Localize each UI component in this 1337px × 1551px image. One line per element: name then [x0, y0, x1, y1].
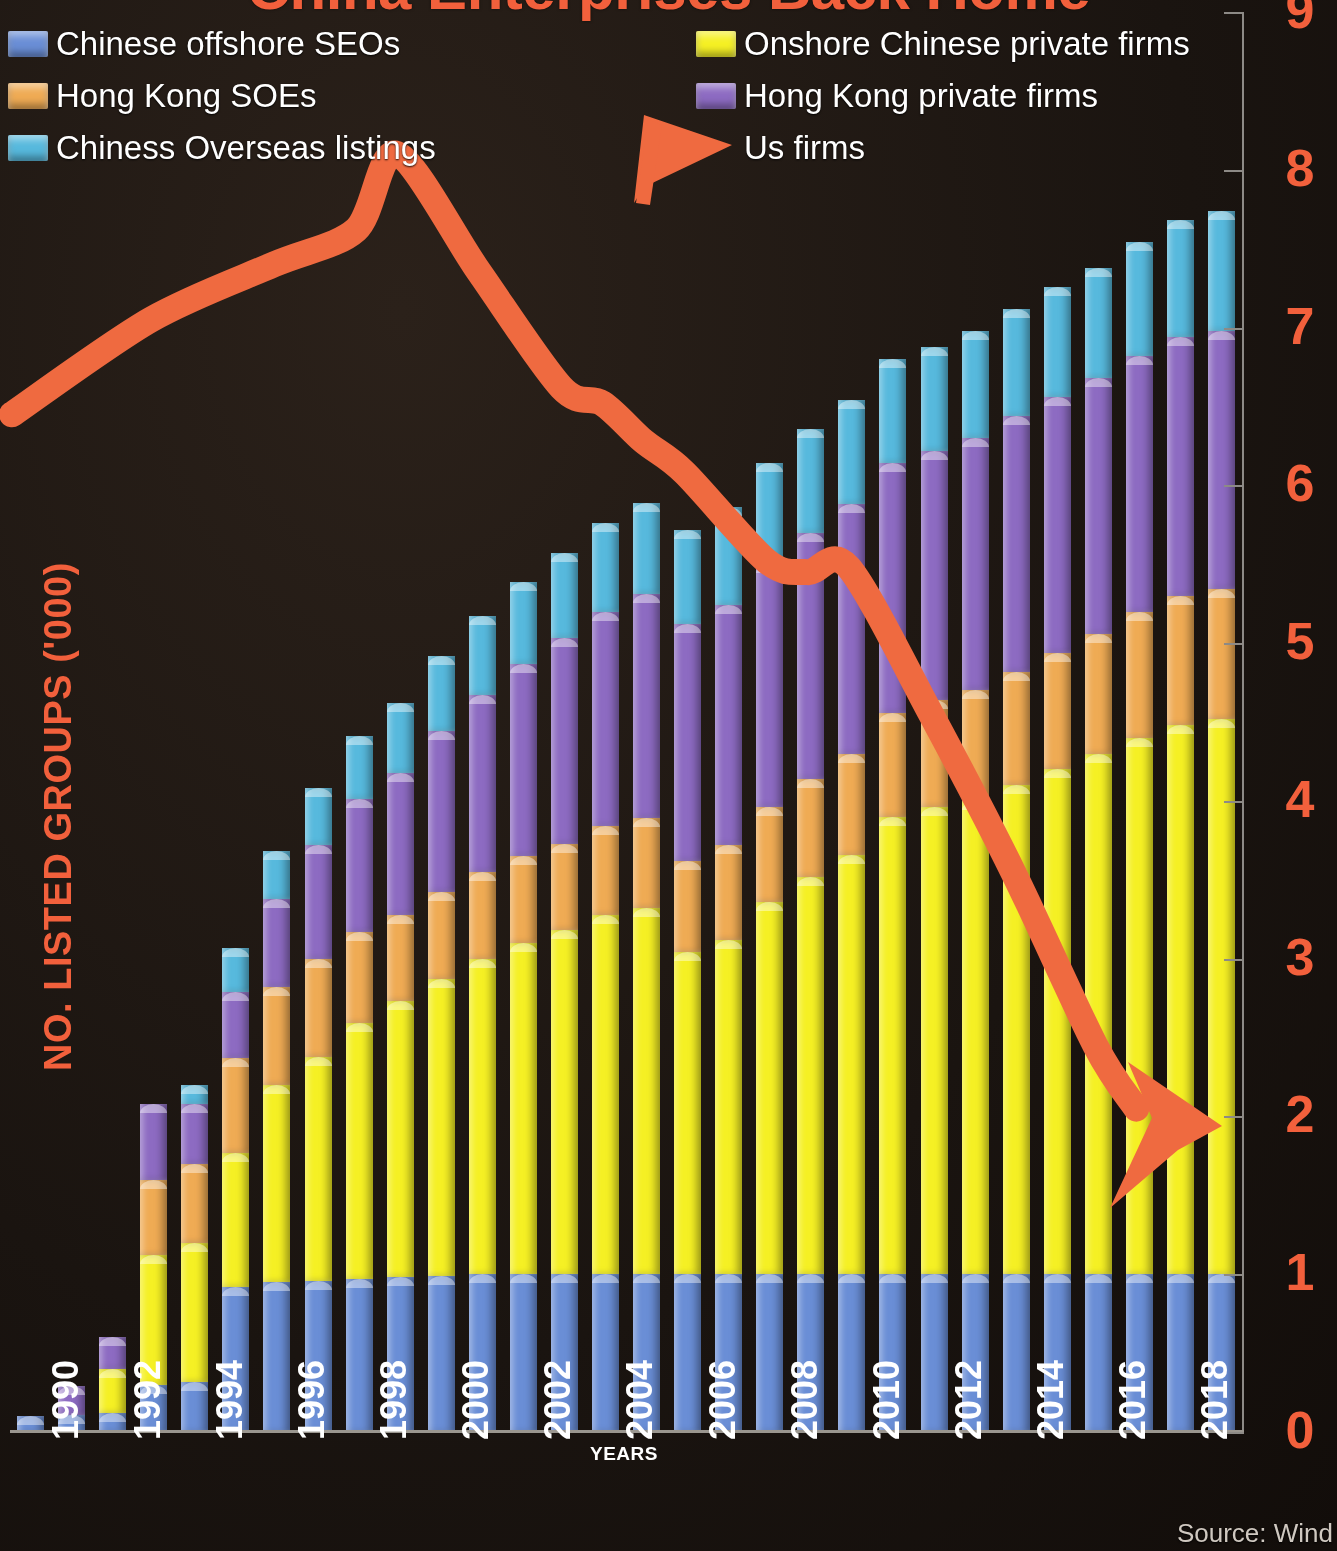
y-axis-tick: [1224, 328, 1244, 330]
bar-segment-chinese-offshore-seos: [1003, 1274, 1030, 1432]
bar-1998[interactable]: [346, 736, 373, 1432]
x-axis-tick-label: 2012: [948, 1320, 990, 1440]
bar-segment-chiness-overseas-listings: [510, 582, 537, 664]
bar-2015[interactable]: [1044, 287, 1071, 1432]
bar-2017[interactable]: [1126, 242, 1153, 1432]
legend-item-hong-kong-soes[interactable]: Hong Kong SOEs: [8, 70, 436, 122]
bar-segment-hong-kong-soes: [633, 818, 660, 908]
bar-segment-highlight: [756, 463, 783, 472]
bar-2000[interactable]: [428, 656, 455, 1432]
bar-segment-highlight: [428, 731, 455, 740]
bar-segment-highlight: [1044, 653, 1071, 662]
legend-item-chinese-offshore-seos[interactable]: Chinese offshore SEOs: [8, 18, 436, 70]
bar-2002[interactable]: [510, 582, 537, 1432]
legend-column-left: Chinese offshore SEOsHong Kong SOEsChine…: [8, 18, 436, 174]
bar-2008[interactable]: [756, 463, 783, 1432]
bar-1996[interactable]: [263, 851, 290, 1432]
bar-2007[interactable]: [715, 507, 742, 1432]
bar-segment-highlight: [1085, 378, 1112, 387]
bar-segment-highlight: [222, 992, 249, 1001]
bar-2005[interactable]: [633, 503, 660, 1432]
bar-2010[interactable]: [838, 400, 865, 1432]
bar-segment-highlight: [962, 801, 989, 810]
bar-segment-highlight: [674, 530, 701, 539]
legend-item-label: Chiness Overseas listings: [56, 129, 436, 167]
bar-segment-highlight: [1126, 612, 1153, 621]
legend-item-onshore-chinese-private-firms[interactable]: Onshore Chinese private firms: [696, 18, 1190, 70]
bar-segment-highlight: [99, 1413, 126, 1422]
bar-segment-chinese-offshore-seos: [756, 1274, 783, 1432]
bar-segment-highlight: [797, 533, 824, 542]
x-axis-tick-label: 1994: [209, 1320, 251, 1440]
bar-segment-hong-kong-private-firms: [797, 533, 824, 779]
bar-segment-chiness-overseas-listings: [962, 331, 989, 438]
bar-segment-chiness-overseas-listings: [592, 523, 619, 611]
bar-segment-onshore-chinese-private-firms: [387, 1001, 414, 1277]
bar-segment-chiness-overseas-listings: [797, 429, 824, 533]
bar-segment-chinese-offshore-seos: [428, 1276, 455, 1432]
bar-2009[interactable]: [797, 429, 824, 1432]
bar-segment-highlight: [633, 818, 660, 827]
bar-segment-highlight: [263, 899, 290, 908]
bar-segment-onshore-chinese-private-firms: [756, 902, 783, 1274]
legend-item-chiness-overseas-listings[interactable]: Chiness Overseas listings: [8, 122, 436, 174]
bar-1992[interactable]: [99, 1337, 126, 1432]
bar-segment-onshore-chinese-private-firms: [305, 1057, 332, 1281]
bar-segment-chinese-offshore-seos: [838, 1274, 865, 1432]
bar-segment-highlight: [140, 1180, 167, 1189]
bar-2019[interactable]: [1208, 211, 1235, 1432]
bar-segment-onshore-chinese-private-firms: [633, 908, 660, 1274]
bar-2014[interactable]: [1003, 309, 1030, 1432]
y-axis-tick: [1224, 12, 1244, 14]
bar-segment-hong-kong-private-firms: [962, 438, 989, 690]
bar-segment-onshore-chinese-private-firms: [1003, 785, 1030, 1274]
bar-segment-highlight: [962, 1274, 989, 1283]
bar-segment-highlight: [592, 612, 619, 621]
bar-segment-highlight: [181, 1085, 208, 1094]
bar-segment-highlight: [263, 851, 290, 860]
bar-1994[interactable]: [181, 1085, 208, 1432]
bar-segment-highlight: [1085, 1274, 1112, 1283]
bar-segment-highlight: [387, 1277, 414, 1286]
bar-segment-onshore-chinese-private-firms: [1167, 725, 1194, 1274]
bar-segment-highlight: [921, 807, 948, 816]
bar-segment-onshore-chinese-private-firms: [838, 855, 865, 1275]
bar-segment-highlight: [879, 463, 906, 472]
bar-segment-highlight: [17, 1416, 44, 1425]
bar-segment-highlight: [181, 1164, 208, 1173]
bar-segment-chiness-overseas-listings: [263, 851, 290, 898]
bar-segment-highlight: [921, 347, 948, 356]
bar-segment-highlight: [346, 736, 373, 745]
bar-2001[interactable]: [469, 616, 496, 1432]
bar-segment-highlight: [551, 930, 578, 939]
bar-2013[interactable]: [962, 331, 989, 1432]
bar-2006[interactable]: [674, 530, 701, 1432]
bar-segment-highlight: [181, 1243, 208, 1252]
bar-2011[interactable]: [879, 359, 906, 1432]
bar-segment-chiness-overseas-listings: [674, 530, 701, 625]
bar-segment-onshore-chinese-private-firms: [263, 1085, 290, 1282]
bar-segment-highlight: [551, 638, 578, 647]
bar-segment-highlight: [1167, 337, 1194, 346]
bar-segment-highlight: [510, 943, 537, 952]
bar-segment-highlight: [962, 438, 989, 447]
bar-segment-highlight: [879, 359, 906, 368]
y-axis-tick-label: 0: [1272, 1404, 1328, 1456]
bar-2003[interactable]: [551, 553, 578, 1432]
bar-segment-highlight: [879, 817, 906, 826]
bar-segment-hong-kong-private-firms: [756, 564, 783, 807]
y-axis-line: [1242, 12, 1244, 1432]
bar-2004[interactable]: [592, 523, 619, 1432]
legend-item-label: Onshore Chinese private firms: [744, 25, 1190, 63]
bar-2018[interactable]: [1167, 220, 1194, 1432]
bar-segment-chiness-overseas-listings: [1003, 309, 1030, 416]
bar-segment-chiness-overseas-listings: [879, 359, 906, 463]
bar-2016[interactable]: [1085, 268, 1112, 1432]
bar-segment-chinese-offshore-seos: [592, 1274, 619, 1432]
bar-segment-highlight: [797, 429, 824, 438]
bar-2012[interactable]: [921, 347, 948, 1433]
y-axis-tick-label: 7: [1272, 300, 1328, 352]
y-axis-tick-label: 2: [1272, 1088, 1328, 1140]
bar-segment-hong-kong-private-firms: [551, 638, 578, 843]
x-axis-tick-label: 2018: [1194, 1320, 1236, 1440]
